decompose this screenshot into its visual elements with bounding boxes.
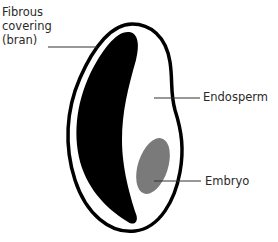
bran-label-line1: Fibrous xyxy=(2,5,52,19)
bran-label-line2: covering xyxy=(2,19,52,33)
bran-label-line3: (bran) xyxy=(2,33,52,47)
bran-label: Fibrous covering (bran) xyxy=(2,5,52,47)
embryo-label: Embryo xyxy=(205,174,249,188)
endosperm-label: Endosperm xyxy=(203,90,268,104)
